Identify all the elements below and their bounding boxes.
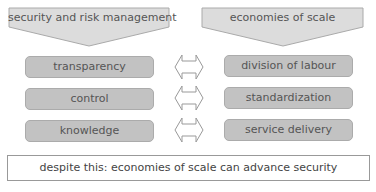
conclusion-box: despite this: economies of scale can adv… (7, 155, 370, 181)
right-item-service-delivery: service delivery (224, 119, 353, 141)
left-item-knowledge: knowledge (25, 120, 154, 142)
right-item-standardization: standardization (224, 87, 353, 109)
left-item-transparency: transparency (25, 56, 154, 78)
right-item-division-of-labour: division of labour (224, 55, 353, 77)
right-header-label: economies of scale (201, 11, 364, 24)
double-arrow-icon (174, 53, 204, 83)
double-arrow-icon (174, 84, 204, 114)
double-arrow-icon (174, 116, 204, 146)
left-header-label: security and risk management (8, 11, 170, 24)
left-item-control: control (25, 88, 154, 110)
